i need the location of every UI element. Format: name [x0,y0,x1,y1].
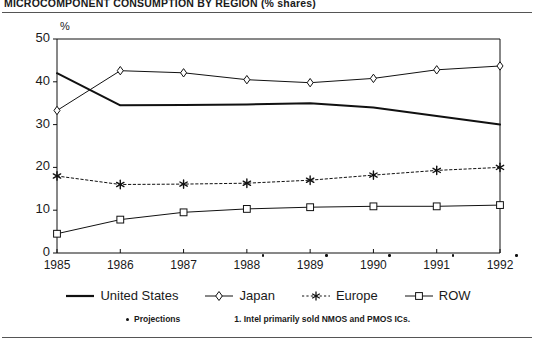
x-tick-1992: 1992 [475,258,525,272]
x-tick-1990: 1990 [348,258,398,272]
footnote-1: 1. Intel primarily sold NMOS and PMOS IC… [234,314,410,324]
x-tick-1991: 1991 [412,258,462,272]
legend-label-row: ROW [439,288,471,303]
x-tick-1988: 1988 [222,258,272,272]
x-tick-1985: 1985 [32,258,82,272]
legend-item-europe[interactable]: Europe [301,288,378,303]
footnote-1-text: 1. Intel primarily sold NMOS and PMOS IC… [234,314,410,324]
line-swatch-icon [65,290,95,302]
projection-dot-1991 [452,254,455,257]
square-swatch-icon [404,290,434,302]
chart-legend: United States Japan Europe [0,288,536,303]
chart-figure: MICROCOMPONENT CONSUMPTION BY REGION (% … [0,0,536,341]
y-tick-30: 30 [24,116,50,131]
projection-dot-1989 [325,254,328,257]
chart-footnotes: Projections 1. Intel primarily sold NMOS… [0,314,536,324]
x-tick-1986: 1986 [95,258,145,272]
x-tick-1987: 1987 [159,258,209,272]
y-tick-50: 50 [24,30,50,45]
legend-label-united-states: United States [100,288,178,303]
y-tick-0: 0 [24,244,50,259]
legend-label-europe: Europe [336,288,378,303]
projection-dot-1988 [262,254,265,257]
x-tick-1989: 1989 [285,258,335,272]
projection-dot-1992 [515,254,518,257]
legend-item-japan[interactable]: Japan [204,288,274,303]
bottom-divider [2,337,532,338]
projection-dot-1990 [388,254,391,257]
y-tick-40: 40 [24,73,50,88]
asterisk-swatch-icon [301,290,331,302]
legend-item-united-states[interactable]: United States [65,288,178,303]
y-tick-20: 20 [24,158,50,173]
projections-label: Projections [134,314,180,324]
legend-item-row[interactable]: ROW [404,288,471,303]
y-tick-10: 10 [24,201,50,216]
dot-icon [126,318,129,321]
diamond-swatch-icon [204,290,234,302]
projections-note: Projections [126,314,180,324]
legend-label-japan: Japan [239,288,274,303]
